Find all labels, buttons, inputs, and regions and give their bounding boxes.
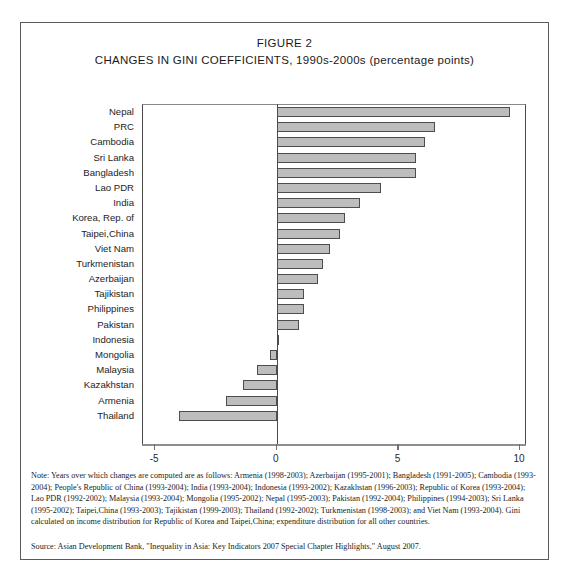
figure-source: Source: Asian Development Bank, "Inequal… [31, 541, 539, 553]
y-axis-label: Korea, Rep. of [21, 210, 138, 225]
bar-row [143, 409, 525, 424]
x-axis-tick [519, 444, 520, 450]
y-axis-label: Thailand [21, 408, 138, 423]
bar [270, 350, 277, 360]
bar-row [143, 181, 525, 196]
x-axis: -50510 [142, 444, 526, 446]
bar-row [143, 120, 525, 135]
y-axis-label: Azerbaijan [21, 271, 138, 286]
bar [277, 229, 340, 239]
bar-row [143, 151, 525, 166]
figure-container: FIGURE 2 CHANGES IN GINI COEFFICIENTS, 1… [20, 22, 549, 560]
y-axis-label: Malaysia [21, 362, 138, 377]
bar-row [143, 287, 525, 302]
bar-row [143, 363, 525, 378]
y-axis-label: Cambodia [21, 134, 138, 149]
x-axis-tick-label: 0 [273, 453, 279, 464]
bar-row [143, 242, 525, 257]
y-axis-label: Turkmenistan [21, 256, 138, 271]
bar [179, 411, 276, 421]
bar-row [143, 348, 525, 363]
bar-row [143, 394, 525, 409]
y-axis-category-labels: NepalPRCCambodiaSri LankaBangladeshLao P… [21, 104, 138, 444]
y-axis-label: Taipei,China [21, 226, 138, 241]
bar-row [143, 227, 525, 242]
bar-row [143, 196, 525, 211]
bar [277, 137, 425, 147]
x-axis-tick-label: 5 [395, 453, 401, 464]
y-axis-label: Nepal [21, 104, 138, 119]
bar [277, 153, 416, 163]
bar [277, 274, 318, 284]
y-axis-label: Tajikistan [21, 286, 138, 301]
bar [277, 304, 304, 314]
bar [277, 122, 435, 132]
bars-layer [143, 105, 525, 444]
bar [277, 259, 323, 269]
bar [277, 107, 511, 117]
y-axis-label: PRC [21, 119, 138, 134]
bar [277, 335, 279, 345]
y-axis-label: Indonesia [21, 332, 138, 347]
bar-row [143, 302, 525, 317]
y-axis-label: India [21, 195, 138, 210]
bar [277, 244, 331, 254]
y-axis-label: Viet Nam [21, 241, 138, 256]
bar [277, 320, 299, 330]
bar [226, 396, 277, 406]
x-axis-tick-label: 10 [514, 453, 525, 464]
bar [277, 168, 416, 178]
bar [277, 198, 360, 208]
bar [277, 289, 304, 299]
y-axis-label: Kazakhstan [21, 377, 138, 392]
bar [277, 183, 382, 193]
y-axis-label: Pakistan [21, 317, 138, 332]
figure-number: FIGURE 2 [21, 35, 548, 52]
x-axis-tick-label: -5 [150, 453, 159, 464]
x-axis-tick [276, 444, 277, 450]
figure-title: FIGURE 2 CHANGES IN GINI COEFFICIENTS, 1… [21, 35, 548, 69]
bar-row [143, 105, 525, 120]
bar [257, 365, 276, 375]
plot-area [142, 104, 526, 444]
bar-row [143, 333, 525, 348]
bar-row [143, 378, 525, 393]
y-axis-label: Philippines [21, 301, 138, 316]
bar-row [143, 272, 525, 287]
figure-note: Note: Years over which changes are compu… [31, 470, 539, 528]
bar-row [143, 211, 525, 226]
bar [243, 380, 277, 390]
bar-row [143, 318, 525, 333]
figure-subtitle: CHANGES IN GINI COEFFICIENTS, 1990s-2000… [21, 52, 548, 69]
bar-row [143, 135, 525, 150]
y-axis-label: Mongolia [21, 347, 138, 362]
bar-row [143, 166, 525, 181]
y-axis-label: Bangladesh [21, 165, 138, 180]
y-axis-label: Armenia [21, 393, 138, 408]
bar-row [143, 257, 525, 272]
x-axis-tick [154, 444, 155, 450]
y-axis-label: Sri Lanka [21, 150, 138, 165]
y-axis-label: Lao PDR [21, 180, 138, 195]
bar [277, 213, 345, 223]
x-axis-tick [397, 444, 398, 450]
